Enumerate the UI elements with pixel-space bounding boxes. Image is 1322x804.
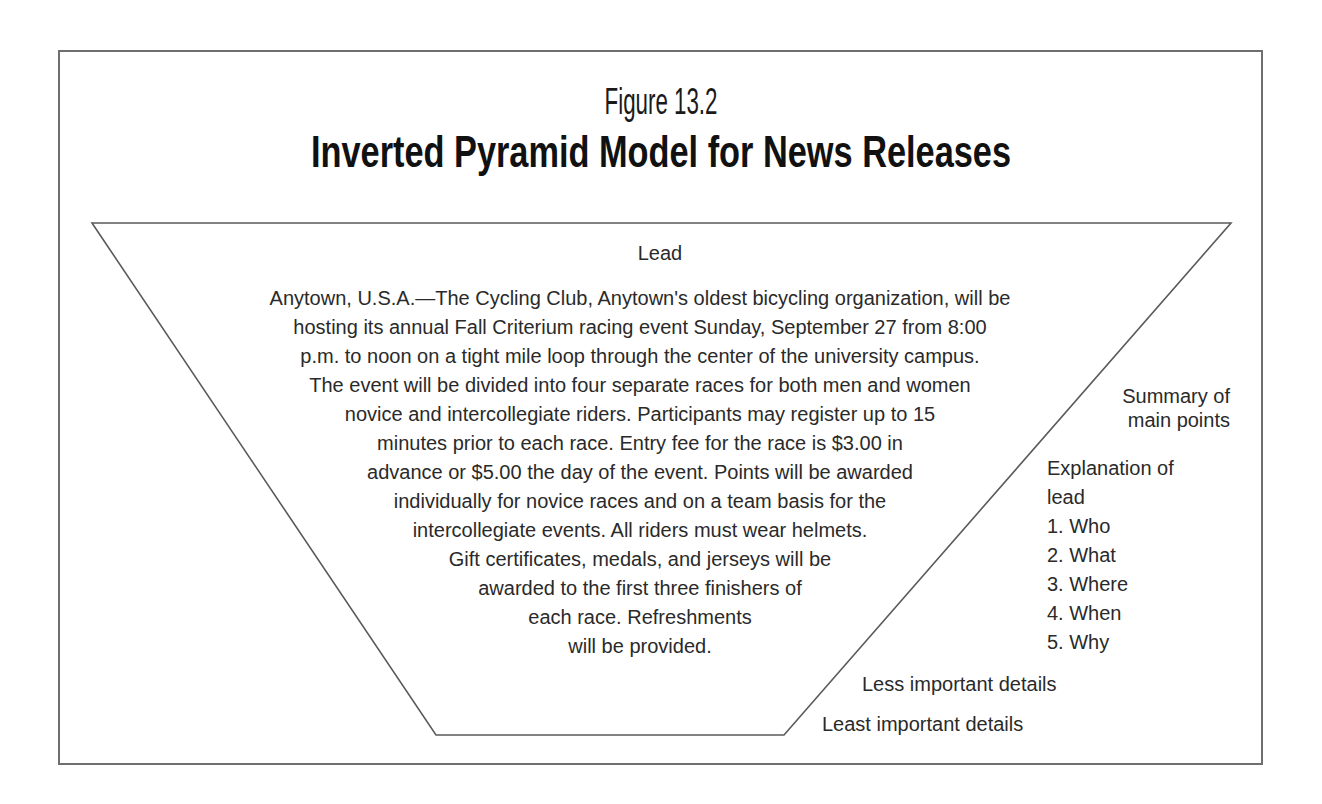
body-line: each race. Refreshments — [160, 603, 1120, 632]
least-important-annotation: Least important details — [822, 712, 1023, 736]
body-line: Gift certificates, medals, and jerseys w… — [160, 545, 1120, 574]
explanation-annotation: Explanation of lead 1. Who 2. What 3. Wh… — [1047, 454, 1174, 657]
lead-label: Lead — [560, 241, 760, 265]
summary-line: Summary of — [1090, 384, 1230, 408]
body-line: individually for novice races and on a t… — [160, 487, 1120, 516]
body-line: p.m. to noon on a tight mile loop throug… — [160, 342, 1120, 371]
explanation-list: 1. Who 2. What 3. Where 4. When 5. Why — [1047, 512, 1174, 657]
body-line: The event will be divided into four sepa… — [160, 371, 1120, 400]
body-line: minutes prior to each race. Entry fee fo… — [160, 429, 1120, 458]
body-line: awarded to the first three finishers of — [160, 574, 1120, 603]
body-line: hosting its annual Fall Criterium racing… — [160, 313, 1120, 342]
explanation-heading: lead — [1047, 483, 1174, 512]
body-line: advance or $5.00 the day of the event. P… — [160, 458, 1120, 487]
list-item-where: 3. Where — [1047, 570, 1174, 599]
list-item-who: 1. Who — [1047, 512, 1174, 541]
body-line: intercollegiate events. All riders must … — [160, 516, 1120, 545]
body-line: novice and intercollegiate riders. Parti… — [160, 400, 1120, 429]
body-line: will be provided. — [160, 632, 1120, 661]
list-item-what: 2. What — [1047, 541, 1174, 570]
list-item-when: 4. When — [1047, 599, 1174, 628]
list-item-why: 5. Why — [1047, 628, 1174, 657]
body-line: Anytown, U.S.A.—The Cycling Club, Anytow… — [160, 284, 1120, 313]
less-important-annotation: Less important details — [862, 672, 1057, 696]
summary-annotation: Summary of main points — [1090, 384, 1230, 432]
news-release-body: Anytown, U.S.A.—The Cycling Club, Anytow… — [160, 284, 1120, 661]
summary-line: main points — [1090, 408, 1230, 432]
explanation-heading: Explanation of — [1047, 454, 1174, 483]
